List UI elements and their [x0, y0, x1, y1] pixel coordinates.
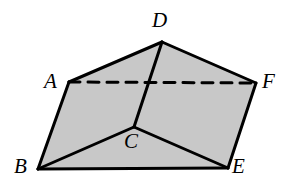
vertex-label-D: D [152, 10, 167, 31]
geometry-figure: A B C D E F [0, 0, 286, 192]
vertex-label-C: C [124, 131, 138, 152]
edge-BE [38, 168, 228, 169]
vertex-label-F: F [262, 71, 275, 92]
vertex-label-B: B [14, 156, 27, 177]
faces-group [38, 42, 256, 169]
vertex-label-A: A [44, 71, 57, 92]
vertex-label-E: E [232, 156, 245, 177]
